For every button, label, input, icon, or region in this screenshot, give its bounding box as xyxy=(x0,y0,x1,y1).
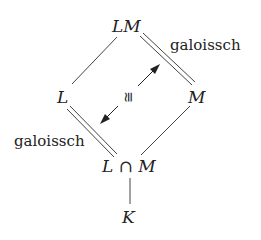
isomorphic-symbol: ≅ xyxy=(121,91,135,103)
label-galoissch-bottom: galoissch xyxy=(14,134,85,149)
node-k: K xyxy=(122,209,135,226)
node-l-cap-m-left: L xyxy=(102,156,113,176)
edge-m-cap xyxy=(141,106,190,155)
galois-diagram: LM L M L ∩ M K galoissch galoissch ≅ xyxy=(0,0,261,240)
node-m: M xyxy=(188,89,205,106)
node-l: L xyxy=(57,89,68,106)
node-l-cap-m: L ∩ M xyxy=(102,158,156,175)
node-l-cap-m-right: M xyxy=(138,156,155,176)
edge-lm-l xyxy=(72,37,117,84)
cap-symbol: ∩ xyxy=(119,156,133,176)
node-lm: LM xyxy=(112,18,141,35)
label-galoissch-top: galoissch xyxy=(170,38,241,53)
